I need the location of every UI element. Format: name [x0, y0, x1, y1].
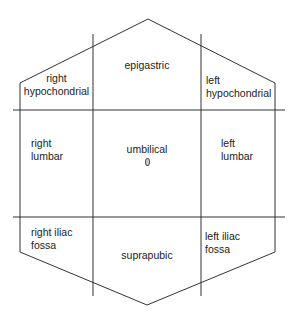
- region-left-hypochondrial: left hypochondrial: [206, 74, 271, 100]
- region-right-lumbar: right lumbar: [31, 137, 63, 163]
- region-suprapubic: suprapubic: [93, 249, 201, 262]
- region-left-lumbar: left lumbar: [221, 137, 253, 163]
- region-left-iliac-fossa: left iliac fossa: [205, 230, 240, 256]
- region-epigastric: epigastric: [93, 59, 201, 72]
- navel-marker: [145, 158, 150, 166]
- region-umbilical: umbilical: [93, 143, 201, 156]
- region-right-hypochondrial: right hypochondrial: [20, 72, 93, 98]
- region-right-iliac-fossa: right iliac fossa: [31, 226, 72, 252]
